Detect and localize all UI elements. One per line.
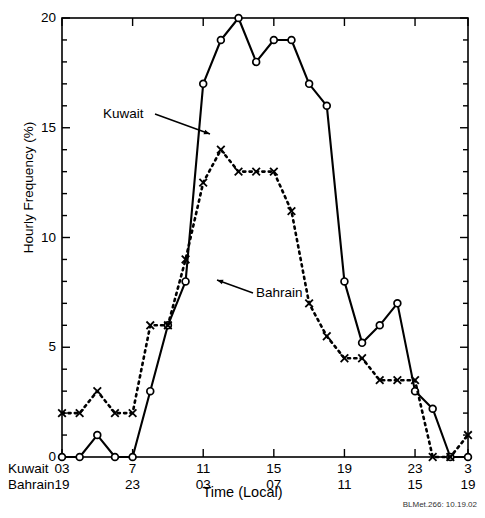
- y-tick-label: 20: [16, 11, 56, 25]
- figure-credit: BLMet.266: 10.19.02: [403, 500, 477, 509]
- marker-kuwait: [270, 37, 277, 44]
- x-tick-label-kuwait: 11: [196, 462, 210, 476]
- x-tick-label-kuwait: 7: [129, 462, 137, 476]
- chart-canvas: [0, 0, 485, 518]
- y-tick-label: 5: [16, 340, 56, 354]
- y-tick-label: 15: [16, 121, 56, 135]
- x-tick-label-kuwait: 19: [337, 462, 352, 476]
- bahrain-leader-head: [217, 280, 224, 285]
- marker-kuwait: [59, 454, 66, 461]
- series-annotation-kuwait: Kuwait: [103, 107, 144, 121]
- x-tick-label-kuwait: 15: [266, 462, 281, 476]
- series-group: [58, 15, 472, 461]
- marker-kuwait: [359, 339, 366, 346]
- kuwait-leader: [155, 114, 210, 134]
- y-tick-label: 10: [16, 231, 56, 245]
- marker-kuwait: [394, 300, 401, 307]
- marker-kuwait: [200, 80, 207, 87]
- series-line-bahrain: [62, 150, 468, 457]
- x-tick-label-kuwait: 3: [464, 462, 472, 476]
- marker-kuwait: [376, 322, 383, 329]
- marker-kuwait: [217, 37, 224, 44]
- marker-bahrain: [235, 168, 243, 176]
- marker-kuwait: [182, 278, 189, 285]
- marker-kuwait: [129, 454, 136, 461]
- axes-group: [62, 18, 468, 457]
- annotation-leaders: [155, 114, 253, 293]
- x-axis-row-label-kuwait: Kuwait: [8, 462, 49, 476]
- y-axis-title: Hourly Frequency (%): [21, 78, 36, 298]
- marker-kuwait: [147, 388, 154, 395]
- chart-figure: Hourly Frequency (%) 05101520 Kuwait Bah…: [0, 0, 485, 518]
- marker-kuwait: [253, 59, 260, 66]
- marker-bahrain: [217, 146, 225, 154]
- marker-kuwait: [306, 80, 313, 87]
- x-tick-label-kuwait: 03: [54, 462, 69, 476]
- marker-kuwait: [94, 432, 101, 439]
- marker-bahrain: [199, 179, 207, 187]
- x-axis-title: Time (Local): [0, 484, 485, 500]
- marker-kuwait: [341, 278, 348, 285]
- marker-kuwait: [429, 405, 436, 412]
- marker-kuwait: [76, 454, 83, 461]
- marker-kuwait: [465, 454, 472, 461]
- marker-kuwait: [235, 15, 242, 22]
- x-tick-label-kuwait: 23: [408, 462, 423, 476]
- plot-frame: [62, 18, 468, 457]
- series-line-kuwait: [62, 18, 468, 457]
- kuwait-leader-head: [204, 130, 211, 135]
- series-annotation-bahrain: Bahrain: [256, 286, 303, 300]
- marker-bahrain: [323, 332, 331, 340]
- marker-kuwait: [112, 454, 119, 461]
- marker-bahrain: [94, 387, 102, 395]
- marker-kuwait: [288, 37, 295, 44]
- marker-kuwait: [323, 102, 330, 109]
